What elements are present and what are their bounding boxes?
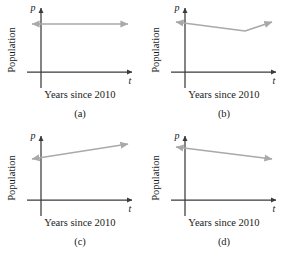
p-axis-symbol: p xyxy=(30,2,36,13)
t-axis-symbol: t xyxy=(273,203,276,214)
x-axis-caption: Years since 2010 xyxy=(44,217,115,228)
panel-letter-a: (a) xyxy=(74,108,86,120)
panel-letter-b: (b) xyxy=(218,108,231,120)
panel-letter-d: (d) xyxy=(218,236,231,248)
y-axis-label: Population xyxy=(6,27,17,73)
t-axis-symbol: t xyxy=(129,75,132,86)
p-axis-symbol: p xyxy=(174,2,180,13)
panel-a: p t Population Years since 2010 (a) xyxy=(0,0,144,128)
p-axis-symbol: p xyxy=(174,130,180,141)
panel-letter-c: (c) xyxy=(74,236,86,248)
figure-four-population-graphs: p t Population Years since 2010 (a) xyxy=(0,0,288,257)
panel-a-graph: p t Population Years since 2010 (a) xyxy=(0,0,144,129)
y-axis-label: Population xyxy=(6,155,17,201)
x-axis-caption: Years since 2010 xyxy=(188,217,259,228)
panel-b-graph: p t Population Years since 2010 (b) xyxy=(144,0,288,129)
x-axis-caption: Years since 2010 xyxy=(44,89,115,100)
population-curve xyxy=(176,147,272,159)
population-curve xyxy=(176,22,272,31)
y-axis-label: Population xyxy=(150,155,161,201)
panel-d-graph: p t Population Years since 2010 (d) xyxy=(144,128,288,257)
panel-c-graph: p t Population Years since 2010 (c) xyxy=(0,128,144,257)
panel-b: p t Population Years since 2010 (b) xyxy=(144,0,288,128)
t-axis-symbol: t xyxy=(129,203,132,214)
x-axis-caption: Years since 2010 xyxy=(188,89,259,100)
panel-c: p t Population Years since 2010 (c) xyxy=(0,128,144,256)
panel-d: p t Population Years since 2010 (d) xyxy=(144,128,288,256)
p-axis-symbol: p xyxy=(30,130,36,141)
t-axis-symbol: t xyxy=(273,75,276,86)
population-curve xyxy=(32,144,128,159)
y-axis-label: Population xyxy=(150,27,161,73)
